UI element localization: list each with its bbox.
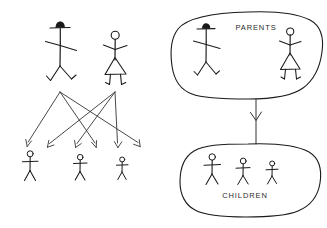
parents-label: PARENTS	[235, 23, 276, 32]
right-child-figure-1	[204, 154, 221, 185]
left-child-figure-1	[23, 151, 39, 181]
left-father-figure	[46, 22, 77, 81]
left-child-figure-2	[74, 154, 88, 180]
diagram-canvas: PARENTS	[0, 0, 327, 228]
right-child-figure-2	[236, 158, 250, 184]
left-mother-figure	[104, 31, 128, 84]
left-child-figure-3	[117, 157, 129, 180]
left-panel-arrows	[26, 92, 140, 148]
right-mother-figure	[280, 28, 302, 79]
diagram-illustration: PARENTS	[0, 0, 327, 228]
right-father-figure	[194, 23, 221, 75]
children-blob	[180, 144, 321, 217]
right-child-figure-3	[266, 161, 278, 184]
parents-to-children-arrow	[251, 99, 262, 144]
children-label: CHILDREN	[222, 191, 268, 200]
